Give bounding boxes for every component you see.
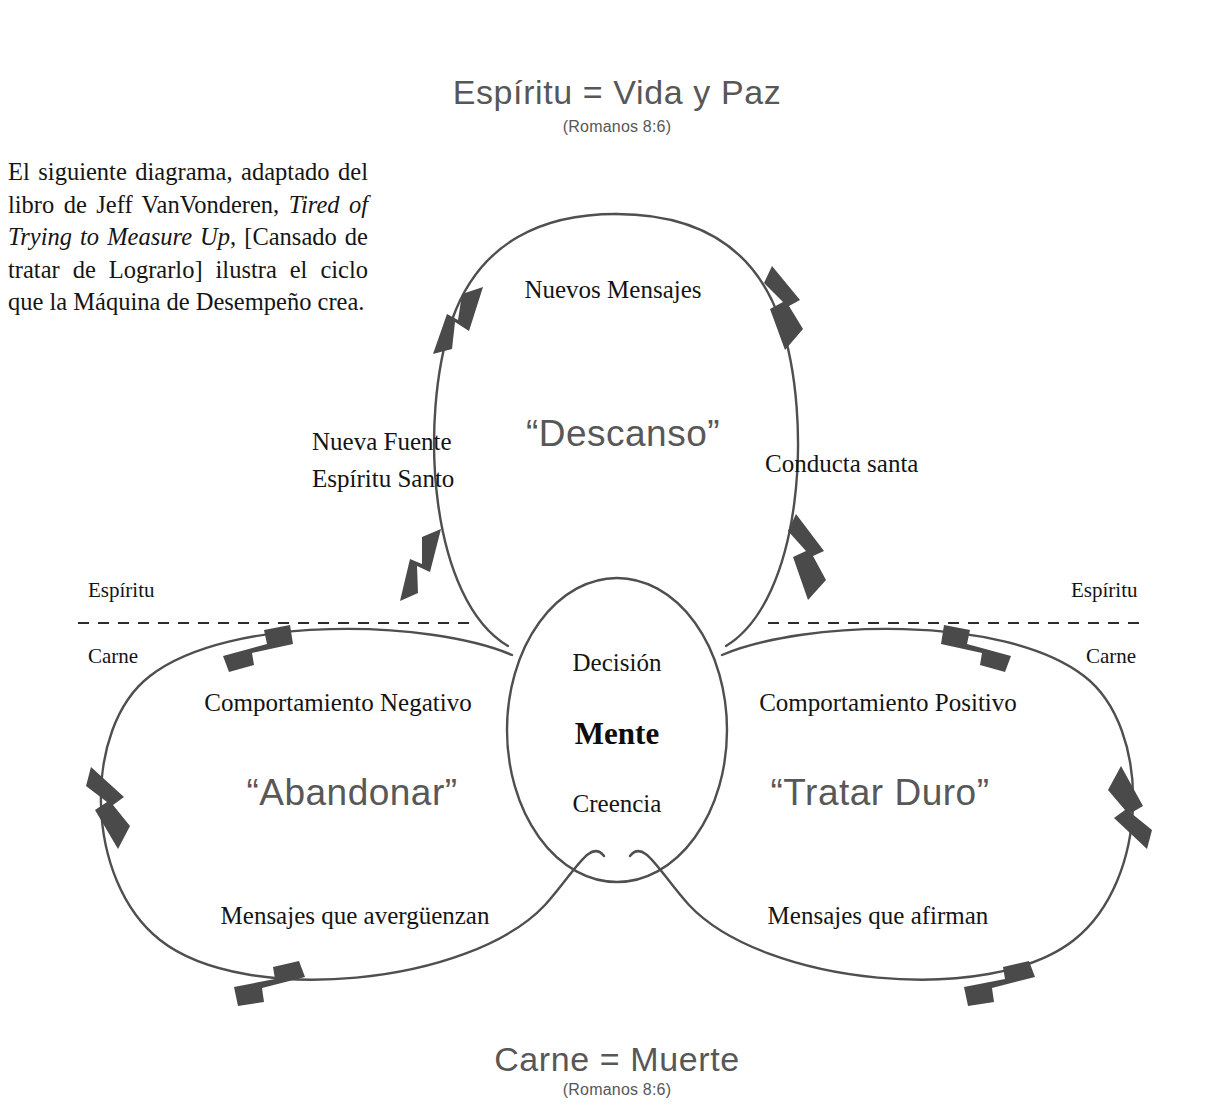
center-label-mente: Mente <box>575 716 659 753</box>
bottom-caption-reference: (Romanos 8:6) <box>563 1081 671 1100</box>
top-caption-reference: (Romanos 8:6) <box>563 118 671 137</box>
divider-left-label-espiritu: Espíritu <box>88 578 155 603</box>
divider-right-label-carne: Carne <box>1086 644 1136 669</box>
top-cycle-label-conducta-santa: Conducta santa <box>765 449 918 479</box>
arrow-left-top-leftward <box>223 625 293 672</box>
diagram-page: Espíritu = Vida y Paz (Romanos 8:6) El s… <box>0 0 1209 1106</box>
arrow-top-left-lower-up <box>400 529 441 601</box>
arrow-right-bottom-rightward <box>964 961 1035 1006</box>
top-cycle-label-nueva-fuente: Nueva Fuente <box>312 427 452 457</box>
arrow-right-top-rightward <box>941 625 1011 672</box>
center-label-creencia: Creencia <box>573 789 662 819</box>
top-cycle-label-espiritu-santo: Espíritu Santo <box>312 464 454 494</box>
right-cycle-label-comportamiento-positivo: Comportamiento Positivo <box>759 688 1017 718</box>
intro-paragraph: El siguiente diagrama, adaptado del libr… <box>8 156 368 319</box>
center-label-decision: Decisión <box>573 648 662 678</box>
bottom-caption-title: Carne = Muerte <box>494 1039 740 1079</box>
right-cycle-name-tratar-duro: “Tratar Duro” <box>771 771 990 815</box>
arrow-top-right-lower-down <box>788 514 826 600</box>
top-cycle-name-descanso: “Descanso” <box>526 412 720 456</box>
arrow-left-side-down <box>86 767 130 849</box>
left-cycle-label-mensajes-avergüenzan: Mensajes que avergüenzan <box>221 901 490 931</box>
arrow-top-right-down <box>764 266 803 350</box>
top-caption-title: Espíritu = Vida y Paz <box>453 72 782 112</box>
divider-left-label-carne: Carne <box>88 644 138 669</box>
left-cycle-label-comportamiento-negativo: Comportamiento Negativo <box>204 688 471 718</box>
arrow-top-left-up <box>433 287 483 354</box>
arrow-left-bottom-rightward <box>234 961 305 1006</box>
left-cycle-name-abandonar: “Abandonar” <box>246 771 457 815</box>
right-cycle-label-mensajes-afirman: Mensajes que afirman <box>768 901 989 931</box>
divider-right-label-espiritu: Espíritu <box>1071 578 1138 603</box>
top-cycle-label-nuevos-mensajes: Nuevos Mensajes <box>524 275 701 305</box>
